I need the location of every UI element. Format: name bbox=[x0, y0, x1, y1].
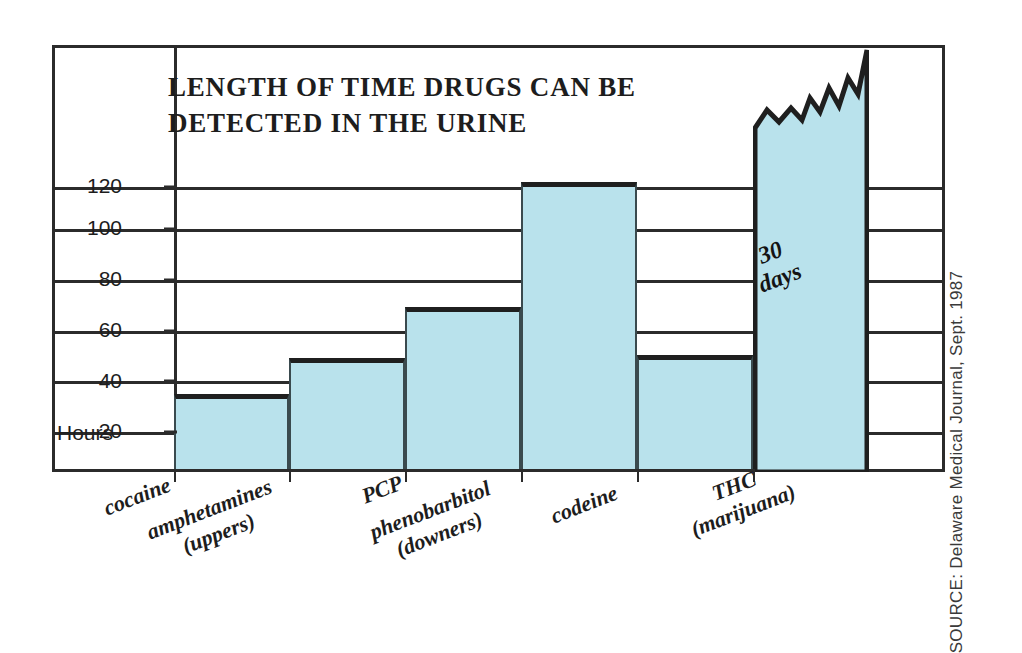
source-note: SOURCE: Delaware Medical Journal, Sept. … bbox=[940, 45, 974, 472]
x-tick-0 bbox=[174, 469, 176, 482]
bar-pcp[interactable] bbox=[405, 307, 521, 469]
y-tick-mark-60 bbox=[164, 330, 177, 333]
y-tick-mark-20 bbox=[164, 431, 177, 434]
y-tick-label-100: 100 bbox=[87, 216, 122, 240]
bar-amphetamines[interactable] bbox=[289, 358, 405, 469]
chart-title: LENGTH OF TIME DRUGS CAN BE DETECTED IN … bbox=[168, 70, 788, 141]
y-tick-mark-100 bbox=[164, 228, 177, 231]
bar-cocaine[interactable] bbox=[174, 394, 289, 469]
x-label-codeine-line-1: codeine bbox=[547, 480, 621, 528]
chart-title-line-2: DETECTED IN THE URINE bbox=[168, 106, 788, 142]
x-tick-3 bbox=[521, 469, 523, 482]
x-tick-2 bbox=[405, 469, 407, 482]
chart-title-line-1: LENGTH OF TIME DRUGS CAN BE bbox=[168, 70, 788, 106]
y-tick-label-120: 120 bbox=[87, 174, 122, 198]
x-label-pcp-line-1: PCP bbox=[358, 470, 406, 508]
y-tick-label-80: 80 bbox=[99, 267, 122, 291]
y-tick-mark-40 bbox=[164, 380, 177, 383]
y-tick-mark-120 bbox=[164, 186, 177, 189]
bar-codeine[interactable] bbox=[637, 355, 753, 469]
y-axis-ticks: 120 100 80 60 40 20 bbox=[0, 45, 122, 472]
source-note-text: SOURCE: Delaware Medical Journal, Sept. … bbox=[947, 271, 967, 653]
x-label-codeine: codeine bbox=[547, 480, 621, 529]
bar-phenobarbitol[interactable] bbox=[521, 182, 637, 469]
x-label-pcp: PCP bbox=[358, 470, 406, 509]
x-tick-1 bbox=[289, 469, 291, 482]
y-tick-mark-80 bbox=[164, 279, 177, 282]
y-tick-label-40: 40 bbox=[99, 369, 122, 393]
y-axis-units-label: Hours bbox=[57, 421, 113, 445]
x-tick-4 bbox=[637, 469, 639, 482]
y-tick-label-60: 60 bbox=[99, 318, 122, 342]
